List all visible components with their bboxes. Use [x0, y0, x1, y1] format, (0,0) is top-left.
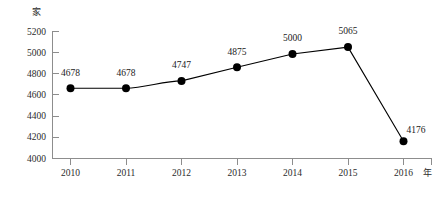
line-chart: 家 5200 5000 4800 4600 4400 4200 4000 [0, 0, 447, 198]
data-point-marker [67, 84, 75, 92]
y-axis-ticks [53, 31, 59, 137]
x-axis-unit-label: 年 [423, 167, 432, 178]
data-point-label: 4747 [172, 60, 191, 70]
y-tick-label: 4800 [27, 69, 46, 79]
series-markers [67, 43, 408, 145]
x-axis-ticks [71, 159, 432, 165]
data-point-label: 5000 [283, 33, 302, 43]
x-tick-label: 2010 [61, 168, 80, 178]
y-tick-label: 5000 [27, 48, 46, 58]
y-axis-unit-label: 家 [32, 6, 41, 17]
x-tick-label: 2012 [172, 168, 191, 178]
x-tick-label: 2011 [117, 168, 136, 178]
chart-canvas: 家 5200 5000 4800 4600 4400 4200 4000 [0, 0, 447, 198]
data-point-label: 4678 [117, 68, 136, 78]
x-tick-label: 2015 [339, 168, 358, 178]
data-point-label: 4176 [407, 125, 426, 135]
data-point-label: 4875 [228, 47, 247, 57]
data-point-marker [122, 84, 130, 92]
data-point-label: 5065 [339, 26, 358, 36]
data-point-marker [233, 63, 241, 71]
data-point-marker [289, 50, 297, 58]
data-point-marker [400, 137, 408, 145]
data-point-marker [344, 43, 352, 51]
y-tick-label: 5200 [27, 27, 46, 37]
y-tick-label: 4200 [27, 132, 46, 142]
series-line [71, 47, 404, 141]
y-tick-label: 4000 [27, 154, 46, 164]
x-tick-label: 2016 [394, 168, 413, 178]
x-tick-label: 2013 [228, 168, 247, 178]
x-tick-label: 2014 [283, 168, 302, 178]
y-tick-label: 4600 [27, 90, 46, 100]
data-point-marker [178, 77, 186, 85]
data-point-label: 4678 [61, 68, 80, 78]
y-tick-label: 4400 [27, 111, 46, 121]
